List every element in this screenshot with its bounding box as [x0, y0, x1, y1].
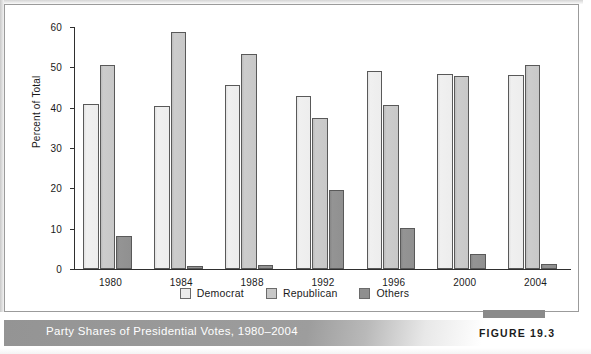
y-tick-0: 0: [70, 269, 75, 270]
bar-others-1996: [400, 228, 416, 269]
figure-number-tab: [483, 310, 545, 318]
bar-others-1984: [187, 266, 203, 269]
bar-republican-1980: [100, 65, 116, 269]
legend-swatch-others: [359, 288, 370, 299]
bar-republican-1988: [241, 54, 257, 269]
bar-group-1984: [154, 27, 203, 269]
chart-panel: Percent of Total 0102030405060 198019841…: [4, 4, 579, 312]
y-tick-50: 50: [70, 67, 75, 68]
bar-democrat-1980: [83, 104, 99, 269]
bar-others-2004: [541, 264, 557, 269]
bar-democrat-1988: [225, 85, 241, 269]
bar-group-1980: [83, 27, 132, 269]
y-tick-label-20: 20: [50, 183, 62, 194]
legend-swatch-democrat: [180, 288, 191, 299]
bar-republican-2000: [454, 76, 470, 269]
bar-others-2000: [470, 254, 486, 269]
y-tick-label-10: 10: [50, 223, 62, 234]
bar-democrat-1992: [296, 96, 312, 269]
legend-label-others: Others: [376, 287, 409, 299]
bar-others-1980: [116, 236, 132, 269]
legend-label-democrat: Democrat: [197, 287, 244, 299]
chart-legend: DemocratRepublicanOthers: [5, 287, 584, 299]
figure-container: Percent of Total 0102030405060 198019841…: [0, 0, 591, 354]
bar-democrat-1996: [367, 71, 383, 269]
y-tick-label-60: 60: [50, 22, 62, 33]
y-tick-20: 20: [70, 188, 75, 189]
legend-swatch-republican: [266, 288, 277, 299]
bar-republican-1996: [383, 105, 399, 269]
bar-group-1996: [367, 27, 416, 269]
bar-others-1992: [329, 190, 345, 269]
legend-item-republican: Republican: [266, 287, 338, 299]
legend-item-democrat: Democrat: [180, 287, 244, 299]
bar-republican-2004: [525, 65, 541, 269]
bar-democrat-2000: [437, 74, 453, 269]
figure-number: FIGURE 19.3: [479, 327, 555, 339]
legend-item-others: Others: [359, 287, 409, 299]
x-axis-line: [74, 269, 571, 270]
bar-group-1988: [225, 27, 274, 269]
figure-caption: Party Shares of Presidential Votes, 1980…: [46, 325, 298, 337]
plot-area: 0102030405060 19801984198819921996200020…: [75, 27, 571, 269]
bar-group-2000: [437, 27, 486, 269]
y-tick-10: 10: [70, 229, 75, 230]
y-tick-30: 30: [70, 148, 75, 149]
y-tick-label-0: 0: [56, 264, 62, 275]
bar-group-1992: [296, 27, 345, 269]
y-tick-60: 60: [70, 27, 75, 28]
bar-republican-1992: [312, 118, 328, 269]
y-tick-label-50: 50: [50, 62, 62, 73]
bar-democrat-1984: [154, 106, 170, 269]
y-tick-label-40: 40: [50, 102, 62, 113]
bar-republican-1984: [171, 32, 187, 269]
bar-group-2004: [508, 27, 557, 269]
bar-democrat-2004: [508, 75, 524, 269]
bar-others-1988: [258, 265, 274, 269]
page-bottom-edge: [0, 348, 591, 354]
legend-label-republican: Republican: [283, 287, 338, 299]
y-axis-label: Percent of Total: [31, 75, 42, 148]
y-tick-40: 40: [70, 108, 75, 109]
y-tick-label-30: 30: [50, 143, 62, 154]
